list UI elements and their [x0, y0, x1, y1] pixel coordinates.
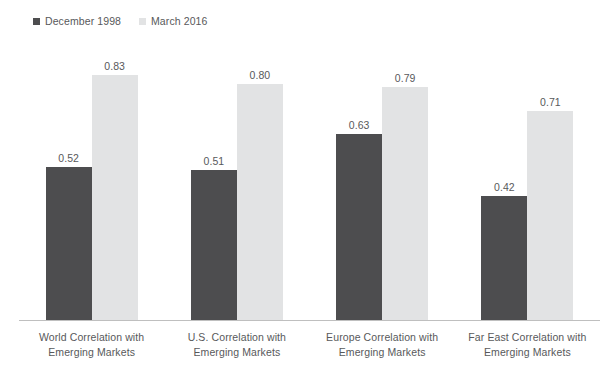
x-axis-baseline	[19, 320, 600, 321]
legend-item-december-1998[interactable]: December 1998	[33, 15, 121, 27]
chart-legend: December 1998 March 2016	[33, 14, 207, 28]
bar-december-1998[interactable]	[481, 196, 527, 320]
legend-label: March 2016	[151, 15, 207, 27]
bar-value-label: 0.63	[349, 119, 370, 131]
bar-march-2016[interactable]	[237, 84, 283, 320]
bar-slot: 0.83	[92, 40, 138, 320]
bar-value-label: 0.51	[203, 155, 224, 167]
category-label-line: U.S. Correlation with	[168, 330, 305, 345]
category-label-line: Emerging Markets	[314, 345, 451, 360]
bar-march-2016[interactable]	[382, 87, 428, 320]
bar-march-2016[interactable]	[92, 75, 138, 320]
bar-group-europe: 0.63 0.79	[310, 40, 455, 320]
bar-slot: 0.79	[382, 40, 428, 320]
bar-value-label: 0.80	[249, 69, 270, 81]
category-label-line: Emerging Markets	[168, 345, 305, 360]
bar-chart: December 1998 March 2016 0.52 0.83	[0, 0, 614, 383]
bar-slot: 0.80	[237, 40, 283, 320]
bar-slot: 0.51	[191, 40, 237, 320]
bar-value-label: 0.79	[395, 72, 416, 84]
bar-value-label: 0.71	[540, 96, 561, 108]
bar-value-label: 0.52	[58, 152, 79, 164]
bar-group-us: 0.51 0.80	[164, 40, 309, 320]
category-label-line: Far East Correlation with	[459, 330, 596, 345]
legend-item-march-2016[interactable]: March 2016	[139, 15, 207, 27]
bar-slot: 0.63	[336, 40, 382, 320]
bar-pair: 0.63 0.79	[310, 40, 455, 320]
plot-area: 0.52 0.83 0.51 0.80	[19, 40, 600, 321]
bar-groups: 0.52 0.83 0.51 0.80	[19, 40, 600, 320]
square-marker-icon	[33, 18, 40, 25]
bar-pair: 0.52 0.83	[19, 40, 164, 320]
legend-label: December 1998	[45, 15, 121, 27]
bar-december-1998[interactable]	[336, 134, 382, 320]
bar-group-far-east: 0.42 0.71	[455, 40, 600, 320]
category-label-line: Emerging Markets	[23, 345, 160, 360]
category-label-line: Europe Correlation with	[314, 330, 451, 345]
square-marker-icon	[139, 18, 146, 25]
bar-group-world: 0.52 0.83	[19, 40, 164, 320]
category-label-far-east: Far East Correlation with Emerging Marke…	[455, 330, 600, 360]
category-label-line: World Correlation with	[23, 330, 160, 345]
bar-slot: 0.42	[481, 40, 527, 320]
bar-pair: 0.51 0.80	[164, 40, 309, 320]
category-label-line: Emerging Markets	[459, 345, 596, 360]
bar-december-1998[interactable]	[191, 170, 237, 320]
category-label-europe: Europe Correlation with Emerging Markets	[310, 330, 455, 360]
bar-value-label: 0.83	[104, 60, 125, 72]
category-label-world: World Correlation with Emerging Markets	[19, 330, 164, 360]
bar-march-2016[interactable]	[527, 111, 573, 320]
bar-pair: 0.42 0.71	[455, 40, 600, 320]
bar-december-1998[interactable]	[46, 167, 92, 320]
bar-slot: 0.52	[46, 40, 92, 320]
category-axis-labels: World Correlation with Emerging Markets …	[19, 330, 600, 360]
bar-value-label: 0.42	[494, 181, 515, 193]
category-label-us: U.S. Correlation with Emerging Markets	[164, 330, 309, 360]
bar-slot: 0.71	[527, 40, 573, 320]
